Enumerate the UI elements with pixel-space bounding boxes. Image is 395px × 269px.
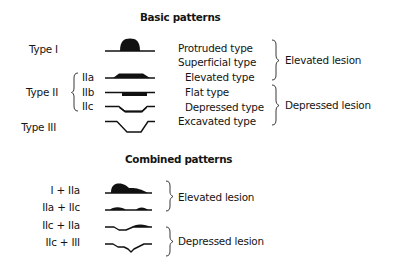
desc-flat: Flat type	[185, 86, 229, 98]
combined-iic-iia-label: IIc + IIa	[0, 219, 80, 231]
combined-iia-iic-shape	[105, 207, 152, 210]
type-ii-label: Type II	[0, 86, 58, 98]
subtype-iia-label: IIa	[82, 71, 94, 83]
combined-iia-iic-label: IIa + IIc	[0, 201, 80, 213]
combined-patterns-title: Combined patterns	[125, 153, 232, 165]
type-iib-flat-shape	[105, 93, 155, 97]
basic-elevated-brace	[272, 40, 279, 80]
combined-iic-iii-shape	[105, 244, 152, 252]
type-iia-elevated-shape	[105, 74, 155, 79]
combined-iic-iia-shape	[105, 224, 152, 230]
lesion-classification-diagram: Basic patterns Type I Type II Type III I…	[0, 0, 395, 269]
desc-excavated: Excavated type	[178, 115, 256, 127]
basic-depressed-lesion-label: Depressed lesion	[285, 99, 371, 111]
type-iii-label: Type III	[0, 121, 56, 133]
basic-patterns-title: Basic patterns	[140, 11, 220, 23]
type-iii-excavated-shape	[105, 122, 155, 133]
desc-superficial: Superficial type	[178, 56, 256, 68]
combined-i-iia-shape	[105, 184, 152, 194]
type-iic-depressed-shape	[105, 107, 155, 113]
desc-depressed: Depressed type	[185, 101, 264, 113]
combined-depressed-lesion-label: Depressed lesion	[178, 235, 264, 247]
subtype-iic-label: IIc	[82, 100, 93, 112]
subtype-iib-label: IIb	[82, 86, 94, 98]
type-i-label: Type I	[0, 43, 58, 55]
type-i-protruded-shape	[105, 39, 155, 52]
basic-depressed-brace	[272, 85, 279, 125]
type-ii-left-brace	[72, 73, 79, 111]
desc-protruded: Protruded type	[178, 42, 253, 54]
combined-iic-iii-label: IIc + III	[0, 236, 80, 248]
combined-elevated-lesion-label: Elevated lesion	[178, 191, 254, 203]
desc-elevated: Elevated type	[185, 71, 254, 83]
basic-elevated-lesion-label: Elevated lesion	[285, 54, 361, 66]
combined-elevated-brace	[166, 181, 173, 211]
combined-depressed-brace	[166, 227, 173, 256]
combined-i-iia-label: I + IIa	[0, 184, 80, 196]
